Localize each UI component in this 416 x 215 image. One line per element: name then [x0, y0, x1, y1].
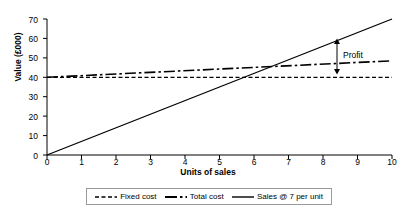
legend-item-sales: Sales @ 7 per unit — [232, 193, 323, 201]
y-tick-label-60: 60 — [12, 34, 38, 44]
y-tick-label-20: 20 — [12, 112, 38, 122]
legend-swatch-dash-dot-icon — [165, 193, 187, 201]
y-tick-label-70: 70 — [12, 15, 38, 25]
legend-item-fixed-cost: Fixed cost — [95, 193, 156, 201]
legend-swatch-dashed-icon — [95, 193, 117, 201]
x-tick-label-4: 4 — [173, 157, 197, 167]
x-axis-title: Units of sales — [0, 167, 416, 177]
x-tick-label-0: 0 — [35, 157, 59, 167]
x-tick-label-8: 8 — [311, 157, 335, 167]
y-tick-label-30: 30 — [12, 92, 38, 102]
y-tick-label-50: 50 — [12, 53, 38, 63]
y-tick-marks — [43, 19, 47, 155]
x-tick-label-5: 5 — [208, 157, 232, 167]
x-tick-label-10: 10 — [380, 157, 404, 167]
x-tick-label-7: 7 — [277, 157, 301, 167]
profit-annotation-arrow — [334, 39, 340, 75]
chart-legend: Fixed cost Total cost Sales @ 7 per unit — [86, 188, 332, 205]
y-tick-label-40: 40 — [12, 73, 38, 83]
x-tick-label-1: 1 — [70, 157, 94, 167]
y-tick-label-10: 10 — [12, 131, 38, 141]
series-line-total-cost — [47, 61, 392, 78]
chart-plot-area — [0, 0, 416, 215]
x-tick-label-9: 9 — [346, 157, 370, 167]
breakeven-chart: Value (£000) 0 10 20 30 40 50 60 70 0 1 … — [0, 0, 416, 215]
x-tick-label-3: 3 — [139, 157, 163, 167]
legend-swatch-solid-icon — [232, 193, 254, 201]
legend-item-total-cost: Total cost — [165, 193, 224, 201]
legend-label-total-cost: Total cost — [190, 193, 224, 201]
x-tick-label-2: 2 — [104, 157, 128, 167]
legend-label-sales: Sales @ 7 per unit — [257, 193, 323, 201]
profit-annotation-label: Profit — [343, 50, 363, 60]
series-line-sales — [47, 19, 392, 155]
legend-label-fixed-cost: Fixed cost — [120, 193, 156, 201]
x-tick-label-6: 6 — [242, 157, 266, 167]
